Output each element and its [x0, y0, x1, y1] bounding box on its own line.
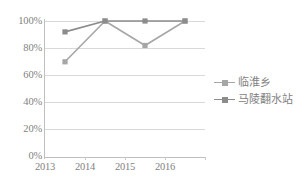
y-axis-labels: 100% 80% 60% 40% 20% 0% [0, 0, 42, 185]
y-axis-tick-label: 20% [2, 124, 42, 134]
legend-label: 临淮乡 [238, 76, 271, 89]
y-axis-tick-label: 60% [2, 70, 42, 80]
y-axis-tick-label: 0% [2, 151, 42, 161]
x-axis-tick-label: 2014 [63, 161, 107, 173]
x-axis-tick [85, 157, 86, 160]
series-line-malingfanshuizhan [65, 21, 185, 32]
x-axis-tick [125, 157, 126, 160]
legend-item-linhuaixiang[interactable]: 临淮乡 [214, 74, 306, 91]
data-point-marker [62, 59, 67, 64]
x-axis-tick [205, 157, 206, 160]
data-point-marker [62, 29, 67, 34]
x-axis-tick-label: 2013 [23, 161, 67, 173]
y-axis-tick-label: 80% [2, 43, 42, 53]
chart-legend: 临淮乡 马陵翻水站 [214, 74, 306, 108]
data-point-marker [102, 18, 107, 23]
y-axis-tick-label: 40% [2, 97, 42, 107]
data-point-marker [182, 18, 187, 23]
plot-area [45, 21, 205, 157]
data-point-marker [142, 18, 147, 23]
data-point-marker [142, 43, 147, 48]
legend-marker-icon [214, 77, 235, 88]
y-axis-tick-label: 100% [2, 16, 42, 26]
x-axis-tick [165, 157, 166, 160]
x-axis-tick-label: 2015 [103, 161, 147, 173]
legend-label: 马陵翻水站 [238, 93, 293, 106]
series-plot [45, 21, 205, 157]
legend-marker-icon [214, 94, 235, 105]
x-axis-tick-label: 2016 [143, 161, 187, 173]
line-chart: 100% 80% 60% 40% 20% 0% 2013 2014 2015 2… [0, 0, 307, 185]
series-markers-linhuaixiang [62, 18, 187, 64]
legend-item-malingfanshuizhan[interactable]: 马陵翻水站 [214, 91, 306, 108]
